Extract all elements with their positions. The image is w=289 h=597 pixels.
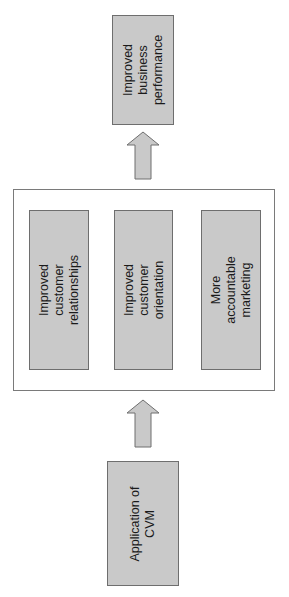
node-more-accountable-marketing: More accountable marketing <box>201 210 261 370</box>
node-label: More accountable marketing <box>209 256 254 323</box>
arrow-up-icon <box>126 399 160 449</box>
node-improved-customer-orientation: Improved customer orientation <box>114 210 173 370</box>
node-label: Improved customer orientation <box>121 261 166 319</box>
node-label: Improved customer relationships <box>37 255 82 325</box>
node-application-of-cvm: Application of CVM <box>107 461 179 586</box>
node-label: Improved business performance <box>121 35 166 105</box>
arrow-up-icon <box>126 131 160 181</box>
node-label: Application of CVM <box>128 486 158 561</box>
node-improved-business-performance: Improved business performance <box>112 15 174 125</box>
node-improved-customer-relationships: Improved customer relationships <box>29 210 89 370</box>
